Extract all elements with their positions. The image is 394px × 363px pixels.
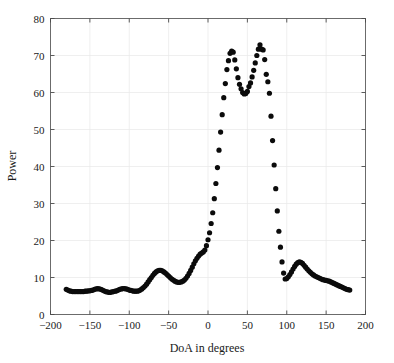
data-point xyxy=(347,287,352,292)
data-point xyxy=(251,68,256,73)
data-point xyxy=(234,66,239,71)
data-point xyxy=(207,230,212,235)
x-tick-label: −50 xyxy=(160,319,178,331)
figure-background xyxy=(0,0,394,363)
x-tick-label: 100 xyxy=(279,319,296,331)
data-point xyxy=(226,58,231,63)
data-point xyxy=(213,181,218,186)
y-tick-label: 80 xyxy=(34,13,46,25)
data-point xyxy=(253,60,258,65)
data-point xyxy=(261,47,266,52)
data-point xyxy=(237,82,242,87)
data-point xyxy=(215,165,220,170)
data-point xyxy=(224,67,229,72)
data-point xyxy=(279,259,284,264)
chart-figure: −200−150−100−50050100150200 010203040506… xyxy=(0,0,394,363)
data-point xyxy=(275,208,280,213)
data-point xyxy=(267,91,272,96)
x-tick-label: −100 xyxy=(118,319,141,331)
y-tick-label: 30 xyxy=(34,198,46,210)
x-tick-label: 150 xyxy=(318,319,335,331)
data-point xyxy=(223,81,228,86)
data-point xyxy=(205,237,210,242)
y-tick-labels: 01020304050607080 xyxy=(34,13,46,321)
data-point xyxy=(264,72,269,77)
y-tick-label: 60 xyxy=(34,87,46,99)
data-point xyxy=(212,196,217,201)
data-point xyxy=(235,75,240,80)
x-tick-label: 50 xyxy=(242,319,254,331)
y-tick-label: 50 xyxy=(34,124,46,136)
data-point xyxy=(265,79,270,84)
data-point xyxy=(254,53,259,58)
data-point xyxy=(276,229,281,234)
data-point xyxy=(220,112,225,117)
data-point xyxy=(202,248,207,253)
x-tick-label: 200 xyxy=(357,319,374,331)
data-point xyxy=(281,270,286,275)
data-point xyxy=(250,74,255,79)
data-point xyxy=(262,57,267,62)
data-point xyxy=(209,221,214,226)
data-point xyxy=(273,186,278,191)
x-tick-label: 0 xyxy=(205,319,211,331)
data-point xyxy=(216,148,221,153)
data-point xyxy=(268,114,273,119)
data-point xyxy=(245,89,250,94)
data-point xyxy=(231,50,236,55)
data-point xyxy=(257,42,262,47)
data-point xyxy=(270,138,275,143)
x-tick-labels: −200−150−100−50050100150200 xyxy=(39,319,374,331)
data-point xyxy=(248,80,253,85)
y-tick-label: 20 xyxy=(34,235,46,247)
data-point xyxy=(204,243,209,248)
y-tick-label: 70 xyxy=(34,50,46,62)
y-tick-label: 0 xyxy=(39,309,45,321)
data-point xyxy=(218,129,223,134)
y-axis-title: Power xyxy=(5,151,19,182)
scatter-plot: −200−150−100−50050100150200 010203040506… xyxy=(0,0,394,363)
data-point xyxy=(272,162,277,167)
data-point xyxy=(232,57,237,62)
data-point xyxy=(210,210,215,215)
y-tick-label: 40 xyxy=(34,161,46,173)
data-point xyxy=(221,95,226,100)
data-point xyxy=(278,245,283,250)
y-tick-label: 10 xyxy=(34,272,46,284)
x-axis-title: DoA in degrees xyxy=(170,341,245,355)
x-tick-label: −150 xyxy=(79,319,102,331)
